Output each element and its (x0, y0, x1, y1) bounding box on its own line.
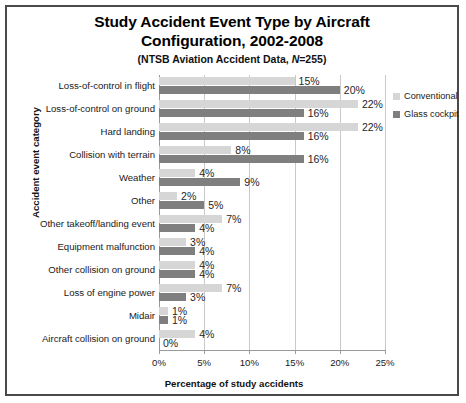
y-axis-category-label: Other collision on ground (15, 265, 155, 275)
x-tick-label: 15% (285, 357, 304, 368)
legend-item[interactable]: Conventional (393, 91, 459, 101)
x-axis-title: Percentage of study accidents (7, 378, 461, 389)
y-axis-title: Accident event category (30, 83, 41, 243)
bar-conventional (159, 169, 195, 177)
bar-value-label: 5% (208, 200, 223, 210)
bar-glass-cockpit (159, 201, 204, 209)
bar-value-label: 15% (299, 76, 320, 86)
x-tick-label: 25% (375, 357, 394, 368)
x-tick-label: 20% (330, 357, 349, 368)
subtitle-prefix: (NTSB Aviation Accident Data, (138, 53, 292, 65)
bar-value-label: 7% (226, 283, 241, 293)
y-axis-category-label: Midair (15, 311, 155, 321)
x-tick-0% (159, 350, 160, 354)
bar-value-label: 4% (199, 168, 214, 178)
bar-glass-cockpit (159, 293, 186, 301)
bar-value-label: 8% (235, 145, 250, 155)
plot-area: 15%20%22%16%22%16%8%16%4%9%2%5%7%4%3%4%4… (159, 75, 385, 350)
chart-title-line-2: Configuration, 2002-2008 (35, 32, 429, 51)
bar-value-label: 4% (199, 269, 214, 279)
bar-conventional (159, 146, 231, 154)
x-tick-10% (249, 350, 250, 354)
gridline-25% (385, 75, 386, 350)
bar-glass-cockpit (159, 109, 304, 117)
bar-value-label: 3% (190, 292, 205, 302)
bar-glass-cockpit (159, 316, 168, 324)
bar-value-label: 20% (344, 85, 365, 95)
bar-glass-cockpit (159, 155, 304, 163)
bar-conventional (159, 238, 186, 246)
bar-value-label: 9% (244, 177, 259, 187)
bar-conventional (159, 261, 195, 269)
bar-value-label: 16% (308, 131, 329, 141)
bar-conventional (159, 307, 168, 315)
bar-glass-cockpit (159, 178, 240, 186)
y-axis-category-label: Equipment malfunction (15, 242, 155, 252)
chart-title: Study Accident Event Type by Aircraft Co… (7, 13, 457, 51)
bar-value-label: 2% (181, 191, 196, 201)
x-tick-15% (295, 350, 296, 354)
bar-glass-cockpit (159, 224, 195, 232)
x-tick-label: 5% (197, 357, 211, 368)
bar-value-label: 0% (163, 338, 178, 348)
x-tick-5% (204, 350, 205, 354)
legend-item[interactable]: Glass cockpit (393, 109, 459, 119)
y-axis-category-label: Aircraft collision on ground (15, 334, 155, 344)
x-tick-20% (340, 350, 341, 354)
legend-swatch-icon (393, 111, 400, 118)
chart-title-line-1: Study Accident Event Type by Aircraft (35, 13, 429, 32)
bar-value-label: 22% (362, 99, 383, 109)
bar-value-label: 7% (226, 214, 241, 224)
x-tick-label: 0% (152, 357, 166, 368)
x-tick-label: 10% (240, 357, 259, 368)
x-axis-line (159, 350, 386, 351)
gridline-20% (340, 75, 341, 350)
bar-glass-cockpit (159, 247, 195, 255)
subtitle-suffix: =255) (299, 53, 326, 65)
legend-label: Conventional (404, 91, 458, 101)
bar-glass-cockpit (159, 86, 340, 94)
bar-value-label: 1% (172, 315, 187, 325)
bar-value-label: 16% (308, 108, 329, 118)
bar-value-label: 4% (199, 329, 214, 339)
title-block: Study Accident Event Type by Aircraft Co… (7, 13, 457, 65)
bar-value-label: 22% (362, 122, 383, 132)
y-axis-category-label: Loss of engine power (15, 288, 155, 298)
chart-subtitle: (NTSB Aviation Accident Data, N=255) (7, 53, 457, 65)
bar-glass-cockpit (159, 132, 304, 140)
x-tick-25% (385, 350, 386, 354)
bar-value-label: 16% (308, 154, 329, 164)
legend-label: Glass cockpit (404, 109, 459, 119)
chart-frame: Study Accident Event Type by Aircraft Co… (5, 5, 459, 396)
x-axis-tick-labels: 0%5%10%15%20%25% (159, 357, 386, 371)
legend: ConventionalGlass cockpit (393, 91, 459, 127)
bar-glass-cockpit (159, 270, 195, 278)
legend-swatch-icon (393, 93, 400, 100)
bar-value-label: 4% (199, 223, 214, 233)
bar-conventional (159, 77, 295, 85)
bar-conventional (159, 192, 177, 200)
bar-value-label: 4% (199, 246, 214, 256)
